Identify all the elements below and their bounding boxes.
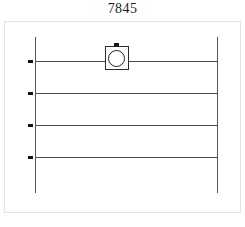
node-circle-icon bbox=[108, 50, 125, 67]
horizontal-line-3 bbox=[35, 125, 218, 126]
horizontal-line-4 bbox=[35, 157, 218, 158]
diagram-root: 7845 bbox=[0, 0, 245, 227]
line-marker-1 bbox=[28, 60, 33, 63]
line-marker-3 bbox=[28, 124, 33, 127]
horizontal-line-2 bbox=[35, 93, 218, 94]
diagram-canvas bbox=[0, 0, 245, 227]
line-marker-2 bbox=[28, 92, 33, 95]
node-tab-icon bbox=[114, 43, 119, 46]
square-circle-node[interactable] bbox=[105, 46, 129, 70]
line-marker-4 bbox=[28, 156, 33, 159]
